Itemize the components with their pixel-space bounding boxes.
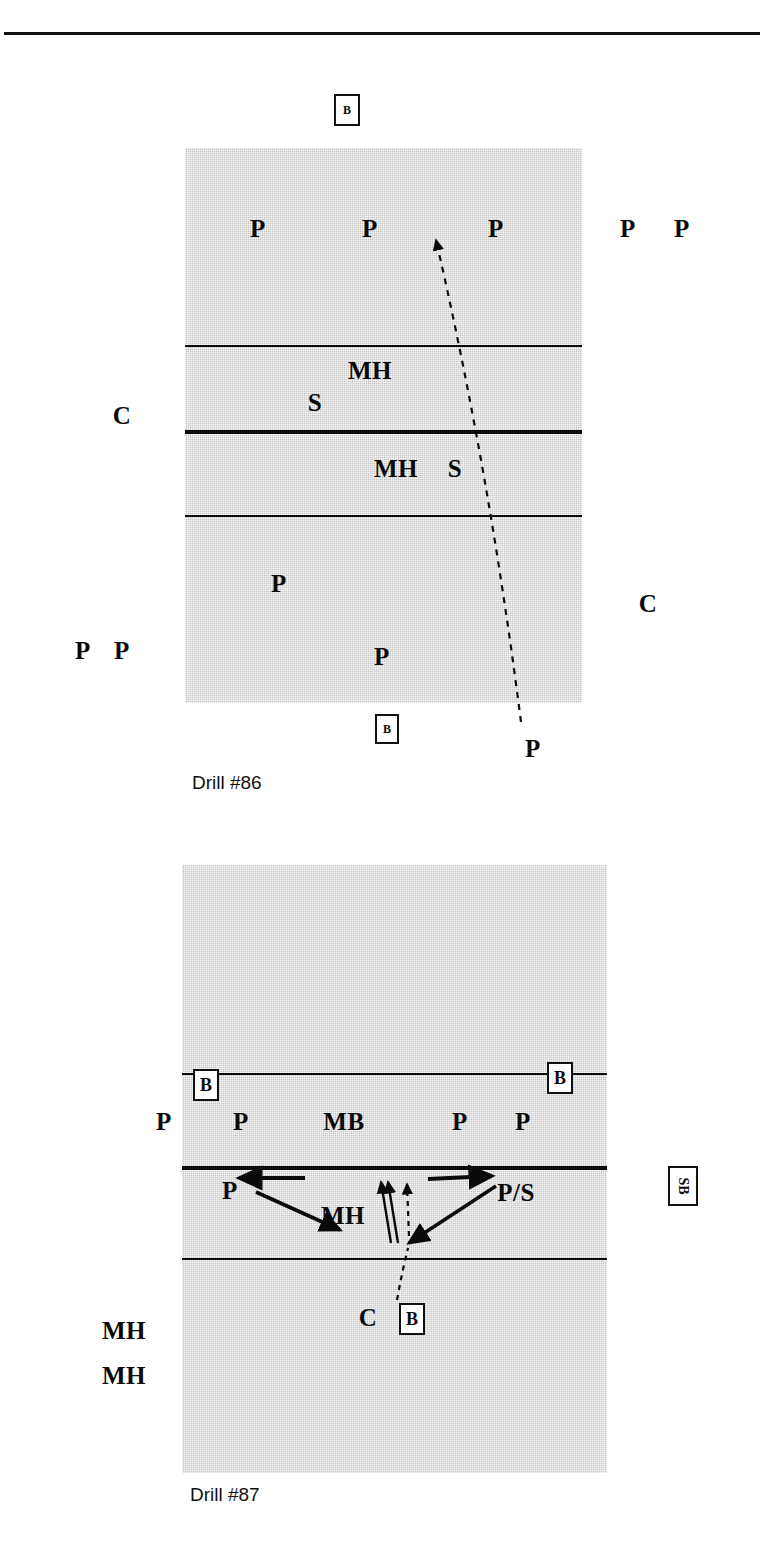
label-player-far-left: P (250, 216, 266, 241)
label-middle-hitter-queue-2: MH (102, 1363, 146, 1388)
ball-box-label: B (406, 1309, 418, 1330)
ball-box-label: B (554, 1068, 566, 1089)
ball-box-bottom-86: B (375, 714, 399, 744)
court-87-attack-line-far (182, 1073, 607, 1075)
label-player-left-in: P (233, 1109, 249, 1134)
court-86-attack-line-far (185, 345, 582, 347)
court-87-attack-line-near (182, 1258, 607, 1260)
shag-ball-box-label: SB (675, 1177, 691, 1194)
label-player-outside-left-1: P (75, 638, 91, 663)
label-player-far-right: P (488, 216, 504, 241)
document-page: P P P P P MH S C MH S P C P P P P B B Dr… (0, 0, 763, 1547)
label-player-far-center: P (362, 216, 378, 241)
ball-box-label: B (343, 103, 351, 118)
court-87-net-line (182, 1166, 607, 1170)
ball-box-right-87: B (547, 1062, 573, 1094)
label-player-left-outside: P (156, 1109, 172, 1134)
label-player-outside-right-1: P (620, 216, 636, 241)
volleyball-court-86 (185, 148, 582, 703)
label-middle-blocker: MB (323, 1109, 364, 1134)
court-86-net-line (185, 430, 582, 434)
label-player-near-left-87: P (222, 1178, 238, 1203)
ball-box-top-86: B (334, 94, 360, 126)
label-setter-near: S (448, 456, 462, 481)
label-middle-hitter-queue-1: MH (102, 1318, 146, 1343)
label-player-server: P (525, 736, 541, 761)
label-player-outside-right-2: P (674, 216, 690, 241)
label-middle-hitter-near: MH (374, 456, 418, 481)
shag-ball-box-right-87: SB (668, 1166, 698, 1206)
label-player-near-left: P (271, 571, 287, 596)
label-coach-near: C (359, 1305, 378, 1330)
label-setter-far: S (308, 390, 322, 415)
label-coach-right: C (639, 591, 658, 616)
label-player-outside-left-2: P (114, 638, 130, 663)
drill-87-caption: Drill #87 (190, 1484, 260, 1506)
court-86-attack-line-near (185, 515, 582, 517)
label-player-right-in: P (452, 1109, 468, 1134)
label-middle-hitter-far: MH (348, 358, 392, 383)
ball-box-near-coach-87: B (399, 1303, 425, 1335)
label-player-right-outside: P (515, 1109, 531, 1134)
ball-box-left-87: B (193, 1069, 219, 1101)
drill-86-caption: Drill #86 (192, 772, 262, 794)
ball-box-label: B (200, 1075, 212, 1096)
ball-box-label: B (383, 722, 391, 737)
label-coach-left: C (113, 403, 132, 428)
label-player-near-center: P (374, 644, 390, 669)
label-player-setter-right: P/S (497, 1180, 535, 1205)
label-middle-hitter-near-87: MH (321, 1203, 365, 1228)
top-horizontal-rule (4, 32, 760, 35)
